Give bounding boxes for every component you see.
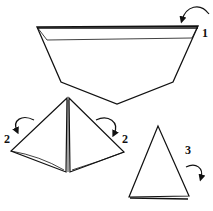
step-2-right-label: 2 [122, 132, 128, 146]
step-3-label: 3 [185, 143, 191, 157]
fold-arrow-2-left-icon [16, 118, 34, 131]
fold-arrow-1-icon [182, 7, 209, 20]
origami-diagram: 1 2 2 3 [0, 0, 213, 211]
step2-shape [11, 98, 124, 172]
step-1-label: 1 [202, 26, 208, 40]
step-2-left-label: 2 [4, 132, 10, 146]
fold-arrow-2-right-icon [96, 118, 116, 134]
fold-arrow-3-icon [186, 165, 202, 178]
step1-shape [37, 26, 198, 104]
step3-shape [129, 126, 189, 199]
